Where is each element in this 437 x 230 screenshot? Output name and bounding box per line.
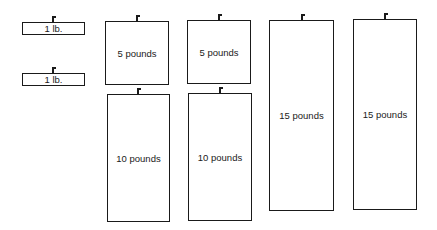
hook-icon bbox=[219, 87, 224, 93]
weight-label: 1 lb. bbox=[45, 23, 63, 34]
hook-icon bbox=[52, 16, 57, 22]
hook-icon bbox=[384, 13, 389, 19]
weight-box-w5a: 5 pounds bbox=[105, 21, 169, 85]
weight-box-w15a: 15 pounds bbox=[269, 20, 334, 211]
weight-label: 5 pounds bbox=[117, 48, 156, 59]
hook-icon bbox=[137, 88, 142, 94]
weight-box-w10a: 10 pounds bbox=[107, 94, 170, 222]
weight-label: 1 lb. bbox=[45, 74, 63, 85]
weight-box-w10b: 10 pounds bbox=[188, 93, 252, 221]
weight-box-w5b: 5 pounds bbox=[187, 20, 251, 84]
weight-box-w1b: 1 lb. bbox=[22, 73, 85, 86]
hook-icon bbox=[136, 15, 141, 21]
weight-label: 15 pounds bbox=[279, 110, 323, 121]
weight-label: 5 pounds bbox=[199, 47, 238, 58]
hook-icon bbox=[218, 14, 223, 20]
weight-label: 15 pounds bbox=[363, 109, 407, 120]
hook-icon bbox=[301, 14, 306, 20]
hook-icon bbox=[52, 67, 57, 73]
weight-label: 10 pounds bbox=[116, 153, 160, 164]
weight-label: 10 pounds bbox=[198, 152, 242, 163]
weight-box-w1a: 1 lb. bbox=[22, 22, 85, 35]
weight-box-w15b: 15 pounds bbox=[353, 19, 417, 210]
